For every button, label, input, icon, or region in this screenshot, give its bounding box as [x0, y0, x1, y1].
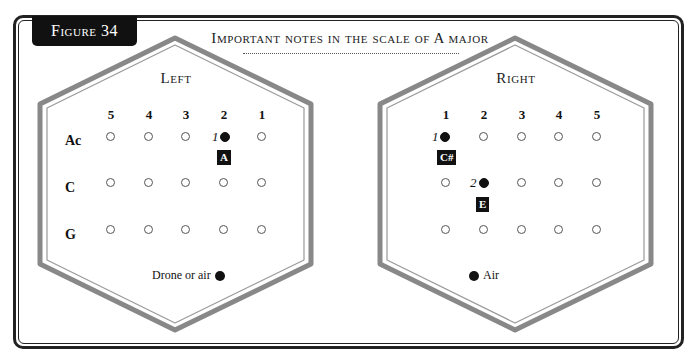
hole-open: [592, 178, 601, 187]
hole-open: [106, 178, 115, 187]
hole-open: [219, 225, 228, 234]
finger-number: 1: [432, 129, 439, 145]
hole-open: [479, 225, 488, 234]
hole-open: [106, 132, 115, 141]
hole-open: [441, 178, 450, 187]
hole-closed: [440, 132, 450, 142]
hole-open: [554, 132, 563, 141]
left-legend: Drone or air: [152, 268, 225, 283]
hole-open: [554, 178, 563, 187]
hole-open: [106, 225, 115, 234]
hole-open: [144, 178, 153, 187]
column-number: 1: [436, 107, 456, 123]
finger-number: 1: [212, 129, 219, 145]
hole-open: [517, 178, 526, 187]
hole-open: [144, 225, 153, 234]
hole-open: [257, 225, 266, 234]
left-panel-label: Left: [136, 70, 216, 87]
legend-text: Drone or air: [152, 268, 211, 283]
hexagon-outlines: [0, 0, 693, 360]
hole-open: [517, 132, 526, 141]
note-label: A: [217, 150, 231, 165]
hole-open: [592, 132, 601, 141]
right-legend: Air: [469, 268, 499, 283]
row-label-ac: Ac: [65, 133, 81, 149]
right-panel-label: Right: [476, 70, 556, 87]
hole-open: [181, 225, 190, 234]
hole-closed: [479, 178, 489, 188]
legend-text: Air: [483, 268, 499, 283]
note-label: C#: [437, 150, 456, 165]
column-number: 2: [474, 107, 494, 123]
column-number: 3: [512, 107, 532, 123]
hole-open: [257, 132, 266, 141]
hole-closed: [220, 132, 230, 142]
hole-open: [441, 225, 450, 234]
filled-dot-icon: [215, 271, 225, 281]
row-label-c: C: [65, 180, 75, 196]
column-number: 2: [214, 107, 234, 123]
note-label: E: [476, 197, 489, 212]
hole-open: [219, 178, 228, 187]
hole-open: [181, 178, 190, 187]
hole-open: [257, 178, 266, 187]
column-number: 5: [587, 107, 607, 123]
hole-open: [554, 225, 563, 234]
hole-open: [517, 225, 526, 234]
column-number: 4: [139, 107, 159, 123]
finger-number: 2: [470, 175, 477, 191]
filled-dot-icon: [469, 271, 479, 281]
hole-open: [144, 132, 153, 141]
column-number: 5: [101, 107, 121, 123]
row-label-g: G: [65, 227, 76, 243]
column-number: 4: [549, 107, 569, 123]
hole-open: [479, 132, 488, 141]
hole-open: [181, 132, 190, 141]
column-number: 1: [252, 107, 272, 123]
hole-open: [592, 225, 601, 234]
column-number: 3: [176, 107, 196, 123]
